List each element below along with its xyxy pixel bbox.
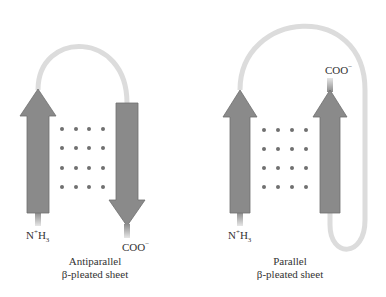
n-symbol: N xyxy=(26,229,34,241)
h-symbol: H xyxy=(240,229,248,241)
parallel-strand-1-up-arrow xyxy=(223,90,257,213)
h-subscript: 3 xyxy=(248,236,252,244)
antiparallel-n-terminus-label: N+H3 xyxy=(26,229,49,242)
antiparallel-n-tail xyxy=(35,212,41,226)
antiparallel-hbond-dots xyxy=(60,127,105,189)
diagram-graphics xyxy=(0,0,386,297)
antiparallel-strand-1-up-arrow xyxy=(20,89,56,213)
caption-line-2: β-pleated sheet xyxy=(257,268,323,281)
parallel-hbond-dots xyxy=(262,128,308,189)
h-subscript: 3 xyxy=(46,236,50,244)
antiparallel-loop xyxy=(38,47,127,103)
parallel-n-terminus-label: N+H3 xyxy=(228,229,251,242)
parallel-strand-2-up-arrow xyxy=(313,90,347,213)
caption-line-2: β-pleated sheet xyxy=(62,268,128,281)
beta-sheet-diagram: N+H3 COO− Antiparallel β-pleated sheet N… xyxy=(0,0,386,297)
h-symbol: H xyxy=(38,229,46,241)
antiparallel-panel xyxy=(20,47,145,238)
coo-symbol: COO xyxy=(325,64,348,76)
caption-line-1: Antiparallel xyxy=(62,255,128,268)
antiparallel-c-terminus-label: COO− xyxy=(122,241,149,254)
parallel-panel xyxy=(223,26,365,249)
n-symbol: N xyxy=(228,229,236,241)
antiparallel-c-tail xyxy=(124,224,130,238)
caption-line-1: Parallel xyxy=(257,255,323,268)
parallel-c-terminus-label: COO− xyxy=(325,64,352,77)
antiparallel-strand-2-down-arrow xyxy=(109,103,145,226)
parallel-n-tail xyxy=(237,212,243,226)
parallel-caption: Parallel β-pleated sheet xyxy=(257,255,323,281)
antiparallel-caption: Antiparallel β-pleated sheet xyxy=(62,255,128,281)
coo-symbol: COO xyxy=(122,241,145,253)
charge-sup: − xyxy=(145,240,149,248)
charge-sup: − xyxy=(348,63,352,71)
parallel-loop xyxy=(240,26,365,249)
